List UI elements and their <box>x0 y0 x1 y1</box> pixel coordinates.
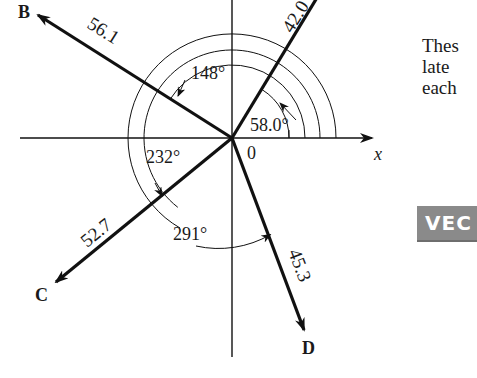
magnitude-d: 45.3 <box>284 246 316 285</box>
vector-d <box>232 138 304 330</box>
side-text-line-3: each <box>422 76 457 100</box>
angle-label-c: 232° <box>146 147 180 167</box>
section-banner-text: VEC <box>425 211 472 235</box>
magnitude-b: 56.1 <box>84 13 123 48</box>
x-axis-label: x <box>373 144 382 164</box>
angle-label-d: 291° <box>173 224 207 244</box>
origin-label: 0 <box>247 143 256 163</box>
vector-c <box>56 138 232 282</box>
angle-label-b: 148° <box>191 63 225 83</box>
magnitude-c: 52.7 <box>76 214 115 251</box>
magnitude-a: 42.0 <box>278 0 313 36</box>
angle-label-a: 58.0° <box>250 115 289 135</box>
section-banner: VEC <box>417 206 477 242</box>
point-label-c: C <box>35 285 48 305</box>
point-label-d: D <box>302 338 315 358</box>
point-label-b: B <box>18 2 30 22</box>
